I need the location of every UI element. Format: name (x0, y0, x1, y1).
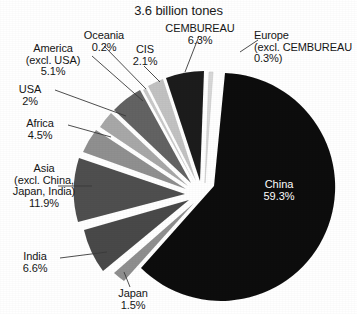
pie-slice-europe-excl-cembureau[interactable] (205, 72, 213, 183)
leader-line-cis (144, 66, 160, 82)
slice-label-america: America (excl. USA) 5.1% (8, 43, 98, 78)
slice-label-cembureau: CEMBUREAU 6.3% (148, 23, 252, 46)
chart-canvas: 3.6 billion tones (0, 0, 357, 314)
slice-label-japan: Japan 1.5% (108, 288, 158, 311)
slice-label-india: India 6.6% (8, 251, 62, 274)
slice-label-europe: Europe (excl. CEMBUREAU 0.3%) (254, 30, 357, 65)
leader-line-usa (55, 90, 126, 116)
slice-label-china: China 59.3% (244, 178, 314, 202)
slice-label-asia: Asia (excl. China, Japan, India) 11.9% (0, 163, 88, 209)
slice-label-cis: CIS 2.1% (120, 44, 170, 67)
slice-label-usa: USA 2% (6, 84, 54, 107)
slice-label-africa: Africa 4.5% (12, 118, 68, 141)
